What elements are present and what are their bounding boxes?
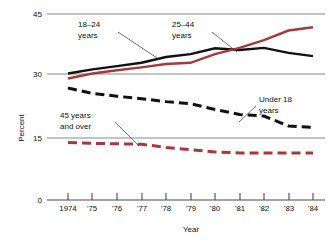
ytick-label-45: 45 <box>33 10 42 19</box>
xtick-label-1978: '78 <box>161 204 171 213</box>
annot-25-44-line2: years <box>172 31 192 40</box>
ytick-label-30: 30 <box>33 70 42 79</box>
annot-under-18: Under 18 years <box>259 95 292 115</box>
annot-45-over-line2: and over <box>60 122 91 131</box>
xtick-label-1975: '75 <box>87 204 98 213</box>
annot-25-44-line1: 25–44 <box>172 20 195 29</box>
annot-18-24: 18–24 years <box>78 20 101 40</box>
xtick-label-1982: '82 <box>259 204 269 213</box>
xtick-label-1984: '84 <box>308 204 319 213</box>
ytick-label-15: 15 <box>33 134 42 143</box>
annot-under-18-line1: Under 18 <box>259 95 292 104</box>
chart-container: 45 30 15 0 Percent 1974 '75 '76 '77 '78 … <box>0 0 331 242</box>
annot-18-24-line1: 18–24 <box>78 20 101 29</box>
x-axis-ticks <box>68 193 313 200</box>
xtick-label-1977: '77 <box>137 204 147 213</box>
y-axis-title: Percent <box>17 113 26 141</box>
leader-18-24 <box>118 32 160 60</box>
series-line-18-24 <box>68 48 313 74</box>
xtick-label-1976: '76 <box>112 204 122 213</box>
xtick-label-1974: 1974 <box>59 204 77 213</box>
x-axis-title: Year <box>183 225 200 234</box>
annot-18-24-line2: years <box>78 31 98 40</box>
series-line-45-and-over <box>68 143 313 153</box>
annot-45-and-over: 45 years and over <box>60 111 91 131</box>
annot-45-over-line1: 45 years <box>60 111 91 120</box>
xtick-label-1980: '80 <box>210 204 221 213</box>
ytick-label-0: 0 <box>38 196 43 205</box>
xtick-label-1979: '79 <box>186 204 196 213</box>
xtick-label-1983: '83 <box>284 204 294 213</box>
xtick-label-1981: '81 <box>235 204 245 213</box>
annot-under-18-line2: years <box>259 106 279 115</box>
line-chart: 45 30 15 0 Percent 1974 '75 '76 '77 '78 … <box>0 0 331 242</box>
annot-25-44: 25–44 years <box>172 20 195 40</box>
